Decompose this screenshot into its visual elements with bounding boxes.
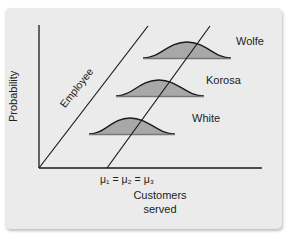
mean-tick-label: μ₁ = μ₂ = μ₃ bbox=[100, 174, 154, 185]
x-axis-label-line1: Customers bbox=[130, 188, 190, 202]
x-axis-label-line2: served bbox=[130, 202, 190, 216]
white-distribution bbox=[89, 118, 175, 135]
y-axis-label: Probability bbox=[8, 71, 19, 122]
wolfe-distribution bbox=[143, 42, 231, 59]
white-label: White bbox=[192, 113, 220, 124]
korosa-label: Korosa bbox=[206, 75, 241, 86]
wolfe-label: Wolfe bbox=[236, 36, 264, 47]
x-axis-label: Customers served bbox=[130, 188, 190, 216]
